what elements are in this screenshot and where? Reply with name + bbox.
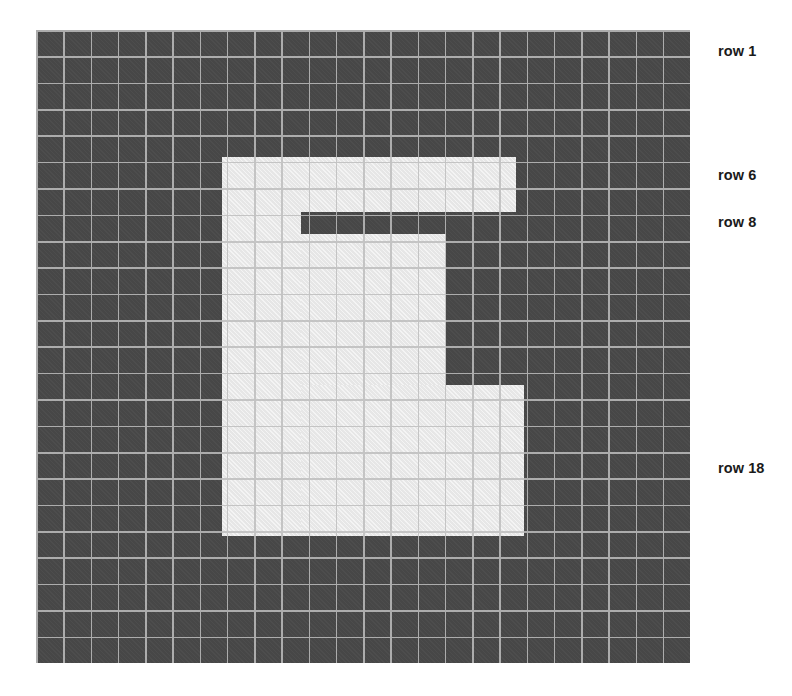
glyph-block-stem — [222, 157, 301, 536]
pixel-grid-figure: row 1 row 6 row 8 row 18 — [0, 0, 792, 696]
row-label-1: row 1 — [718, 44, 756, 59]
glyph-block-bottom-arm — [301, 385, 524, 536]
glyph-block-middle-arm — [301, 234, 446, 385]
row-label-18: row 18 — [718, 461, 765, 476]
glyph-block-top-arm — [301, 157, 516, 212]
row-label-6: row 6 — [718, 168, 756, 183]
row-label-8: row 8 — [718, 215, 756, 230]
pixel-grid-panel — [36, 30, 690, 663]
